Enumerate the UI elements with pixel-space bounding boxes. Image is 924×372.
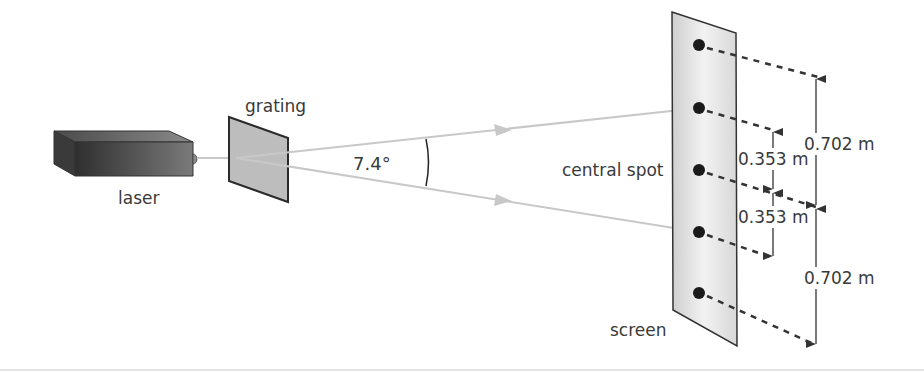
grating-icon <box>229 117 288 202</box>
central-spot-label: central spot <box>562 160 664 180</box>
spot-central <box>693 164 705 176</box>
dim-lower-inner: 0.353 m <box>738 207 809 227</box>
angle-arc <box>426 139 429 186</box>
beam-arrow-lower-icon <box>494 194 512 206</box>
laser-icon <box>54 131 197 176</box>
spot-order-minus1 <box>693 226 705 238</box>
screen-label: screen <box>610 320 667 340</box>
dim-upper-inner: 0.353 m <box>738 149 809 169</box>
spot-order-minus2 <box>693 287 705 299</box>
dim-upper-outer: 0.702 m <box>804 134 875 154</box>
diffraction-diagram: laser grating 7.4° screen central spot <box>0 0 924 372</box>
grating-label: grating <box>245 96 306 116</box>
spot-order-plus1 <box>693 102 705 114</box>
spot-order-plus2 <box>693 39 705 51</box>
laser-label: laser <box>118 188 159 208</box>
dim-lower-outer: 0.702 m <box>804 268 875 288</box>
screen <box>672 12 737 346</box>
angle-label: 7.4° <box>353 153 391 174</box>
beam-arrow-upper-icon <box>494 124 512 136</box>
